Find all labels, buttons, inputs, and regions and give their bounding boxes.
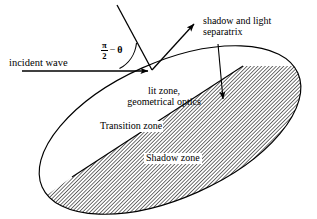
fraction-denominator: 2 <box>101 52 107 61</box>
reflected-ray-arrow <box>152 24 194 70</box>
transition-zone-label: Transition zone <box>99 121 163 132</box>
angle-expression-label: π 2 − θ <box>101 41 123 60</box>
minus-sign: − <box>110 45 116 56</box>
theta-symbol: θ <box>117 45 122 56</box>
pi-over-two-fraction: π 2 <box>101 41 108 60</box>
shadow-and-light-separatrix-label: shadow and light separatrix <box>203 16 271 38</box>
incident-wave-label: incident wave <box>9 57 68 68</box>
optics-diagram-figure: incident wave π 2 − θ shadow and light s… <box>0 0 317 219</box>
fraction-numerator: π <box>101 41 108 50</box>
lit-zone-label: lit zone, geometrical optics <box>112 86 216 108</box>
incoming-ray-line <box>117 5 152 70</box>
shadow-zone-label: Shadow zone <box>144 153 202 164</box>
